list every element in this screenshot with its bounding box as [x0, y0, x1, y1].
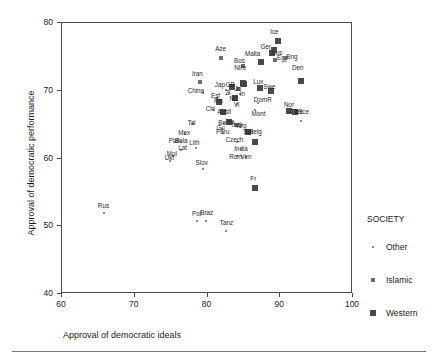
y-axis-tick-label: 50: [31, 220, 53, 230]
data-point-label: Lith: [189, 140, 199, 146]
data-point-label: Fin: [214, 98, 223, 104]
legend-item-label: Islamic: [386, 275, 412, 285]
data-point-label: Czech: [225, 137, 243, 143]
data-point: [205, 220, 207, 222]
plot-area: IceGerAusMaltaEgyBngAzeBosNIreDenIranLux…: [61, 22, 352, 293]
data-point: [219, 56, 223, 60]
data-point-label: Aze: [215, 46, 226, 52]
data-point-label: Lux: [253, 79, 263, 85]
data-point-label: Mont: [251, 111, 265, 117]
data-point: [300, 120, 302, 122]
legend-marker-icon: [367, 278, 379, 282]
x-axis-tick: [352, 293, 353, 297]
data-point-label: Slov: [196, 160, 208, 166]
data-point-label: NIre: [234, 65, 246, 71]
y-axis-tick-label: 80: [31, 17, 53, 27]
data-point-label: Ice: [270, 29, 278, 35]
legend: SOCIETY OtherIslamicWestern: [367, 214, 437, 340]
data-point: [103, 212, 105, 214]
data-point: [252, 139, 258, 145]
data-point-label: Den: [292, 65, 304, 71]
data-point-label: China: [188, 88, 204, 94]
data-point: [225, 230, 227, 232]
x-axis-tick-label: 70: [129, 299, 138, 309]
data-points-layer: IceGerAusMaltaEgyBngAzeBosNIreDenIranLux…: [62, 23, 351, 292]
x-axis-title: Approval of democratic ideals: [63, 330, 181, 340]
x-axis-tick: [134, 293, 135, 297]
legend-title: SOCIETY: [367, 214, 437, 224]
footer-divider: [12, 351, 426, 352]
data-point-label: Austl: [217, 109, 231, 115]
data-point: [257, 85, 263, 91]
data-point-label: DomR: [254, 96, 272, 102]
x-axis-tick: [207, 293, 208, 297]
data-point: [196, 220, 198, 222]
data-point-label: Bng: [286, 54, 297, 60]
x-axis-tick: [61, 293, 62, 297]
data-point-label: Ger: [260, 44, 271, 50]
data-point-label: Belg: [249, 129, 262, 135]
data-point: [275, 38, 281, 44]
y-axis-tick-label: 70: [31, 85, 53, 95]
data-point-label: Tanz: [220, 220, 233, 226]
data-point-label: Li: [240, 81, 245, 87]
legend-item-other[interactable]: Other: [367, 241, 437, 253]
data-point: [258, 59, 264, 65]
y-axis-tick-label: 40: [31, 288, 53, 298]
data-point-label: Sce: [298, 109, 309, 115]
data-point-label: India: [234, 146, 248, 152]
data-point-label: In: [240, 91, 245, 97]
data-point-label: Malta: [245, 51, 260, 57]
y-axis-tick-label: 60: [31, 153, 53, 163]
data-point-label: Vi: [234, 102, 240, 108]
legend-item-label: Western: [386, 308, 418, 318]
legend-entries: OtherIslamicWestern: [367, 241, 437, 319]
data-point-label: Rus: [98, 203, 109, 209]
x-axis-tick-label: 100: [345, 299, 359, 309]
data-point: [202, 168, 204, 170]
data-point-label: Mex: [178, 130, 190, 136]
data-point-label: Swe: [263, 84, 275, 90]
x-axis-tick-label: 90: [275, 299, 284, 309]
data-point-label: Jap: [215, 82, 225, 88]
data-point-label: GB: [225, 82, 234, 88]
data-point-label: Lat: [178, 145, 187, 151]
x-axis-tick-label: 80: [202, 299, 211, 309]
data-point-label: Tal: [187, 119, 195, 125]
data-point: [198, 80, 202, 84]
legend-item-islamic[interactable]: Islamic: [367, 274, 437, 286]
legend-item-label: Other: [386, 242, 407, 252]
data-point-label: Peru: [216, 129, 229, 135]
legend-item-western[interactable]: Western: [367, 307, 437, 319]
data-point-label: Fr: [250, 176, 256, 182]
data-point-label: Chi: [206, 106, 215, 112]
legend-marker-icon: [367, 246, 379, 248]
data-point-label: Ven: [241, 154, 252, 160]
data-point: [252, 185, 258, 191]
legend-marker-icon: [367, 310, 379, 316]
x-axis-tick: [279, 293, 280, 297]
data-point: [298, 78, 304, 84]
x-axis-tick-label: 60: [56, 299, 65, 309]
data-point: [195, 147, 197, 149]
data-point-label: Iran: [192, 71, 203, 77]
data-point-label: Ukr: [165, 155, 175, 161]
scatter-chart: Approval of democratic performance 40506…: [0, 0, 438, 360]
data-point-label: Braz: [200, 210, 213, 216]
